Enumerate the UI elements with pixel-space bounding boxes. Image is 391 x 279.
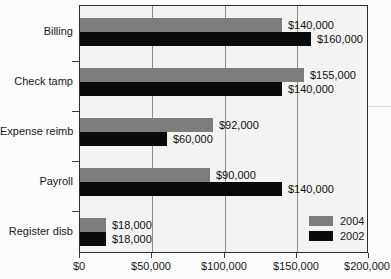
category-label: Billing: [0, 24, 73, 38]
bar-value-label: $90,000: [216, 168, 256, 182]
category-label: Expense reimb: [0, 124, 73, 138]
category-label: Payroll: [0, 174, 73, 188]
category-label: Register disb: [0, 224, 73, 238]
x-tick: [296, 253, 297, 258]
bar-value-label: $140,000: [288, 18, 334, 32]
bar-value-label: $18,000: [112, 232, 152, 246]
legend-label: 2004: [340, 215, 364, 227]
bar-2002-register-disb: [80, 232, 106, 246]
y-tick: [72, 111, 79, 112]
bar-2002-check-tamp: [80, 82, 282, 96]
bar-value-label: $18,000: [112, 218, 152, 232]
x-tick: [368, 253, 369, 258]
x-tick-label: $0: [73, 259, 85, 273]
legend-label: 2002: [340, 230, 364, 242]
bar-2004-payroll: [80, 168, 210, 182]
legend-swatch-2004: [309, 216, 333, 226]
legend-swatch-2002: [309, 231, 333, 241]
x-tick: [151, 253, 152, 258]
bar-value-label: $60,000: [173, 132, 213, 146]
bar-2004-register-disb: [80, 218, 106, 232]
bar-2002-expense-reimb: [80, 132, 167, 146]
bar-value-label: $140,000: [288, 182, 334, 196]
x-tick: [79, 253, 80, 258]
bar-value-label: $92,000: [219, 118, 259, 132]
bar-2004-expense-reimb: [80, 118, 213, 132]
x-tick-label: $100,000: [201, 259, 247, 273]
legend-item: 2002: [309, 228, 364, 243]
x-tick-label: $150,000: [273, 259, 319, 273]
bar-2002-payroll: [80, 182, 282, 196]
bar-2004-billing: [80, 18, 282, 32]
y-tick: [72, 161, 79, 162]
x-tick: [224, 253, 225, 258]
legend: 20042002: [309, 213, 364, 243]
x-tick-label: $50,000: [131, 259, 171, 273]
bar-value-label: $155,000: [310, 68, 356, 82]
y-tick: [72, 61, 79, 62]
bar-2002-billing: [80, 32, 311, 46]
category-label: Check tamp: [0, 74, 73, 88]
bar-chart-figure: $140,000$160,000$155,000$140,000$92,000$…: [0, 0, 391, 279]
bar-value-label: $140,000: [288, 82, 334, 96]
legend-item: 2004: [309, 213, 364, 228]
x-tick-label: $200,000: [344, 259, 390, 273]
bar-2004-check-tamp: [80, 68, 304, 82]
y-tick: [72, 211, 79, 212]
bar-value-label: $160,000: [317, 32, 363, 46]
